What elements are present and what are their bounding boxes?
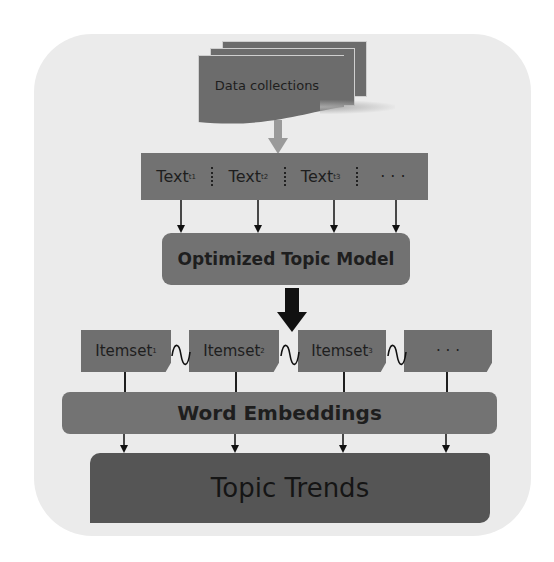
arrow-down-icon [176, 200, 186, 233]
itemset-node: Itemset3 [298, 330, 386, 372]
connector-line [235, 372, 237, 392]
text-cell-label: Text [156, 167, 188, 186]
topic-trends-label: Topic Trends [211, 473, 369, 503]
itemset-node: Itemset2 [189, 330, 279, 372]
text-cell: Textt2 [213, 167, 285, 186]
connector-line [343, 372, 345, 392]
itemset-node: · · · [404, 330, 492, 372]
itemset-subscript: 3 [368, 347, 372, 355]
arrow-down-icon [391, 200, 401, 233]
optimized-topic-model-node: Optimized Topic Model [162, 233, 410, 285]
arrow-down-icon [329, 200, 339, 233]
wave-connector-icon [386, 342, 408, 368]
text-cell: Textt1 [141, 167, 213, 186]
text-cell: Textt3 [286, 167, 358, 186]
word-embeddings-label: Word Embeddings [177, 401, 382, 425]
arrow-down-icon [253, 200, 263, 233]
connector-line [124, 372, 126, 392]
text-cell-subscript: t1 [189, 173, 196, 181]
text-cell-label: Text [229, 167, 261, 186]
topic-trends-node: Topic Trends [90, 453, 490, 523]
arrow-down-icon [230, 434, 240, 453]
document-shadow [320, 100, 395, 114]
itemset-subscript: 2 [260, 347, 264, 355]
text-cell: · · · [358, 167, 428, 186]
text-cell-subscript: t3 [333, 173, 340, 181]
itemset-label: Itemset [311, 342, 368, 360]
data-collections-label: Data collections [198, 78, 336, 93]
itemset-label: Itemset [95, 342, 152, 360]
itemset-subscript: 1 [152, 347, 156, 355]
arrow-down-icon [119, 434, 129, 453]
arrow-down-icon [268, 120, 288, 154]
optimized-topic-model-label: Optimized Topic Model [178, 249, 395, 269]
wave-connector-icon [279, 342, 301, 368]
arrow-down-icon [338, 434, 348, 453]
text-cell-label: · · · [380, 167, 405, 186]
arrow-down-icon [441, 434, 451, 453]
itemset-node: Itemset1 [81, 330, 171, 372]
text-cell-subscript: t2 [261, 173, 268, 181]
arrow-down-bold-icon [277, 288, 307, 332]
itemset-label: Itemset [203, 342, 260, 360]
itemset-label: · · · [436, 342, 460, 360]
wave-connector-icon [170, 342, 192, 368]
word-embeddings-node: Word Embeddings [62, 392, 497, 434]
text-cell-label: Text [301, 167, 333, 186]
text-row: Textt1 Textt2 Textt3 · · · [141, 153, 428, 200]
connector-line [446, 372, 448, 392]
